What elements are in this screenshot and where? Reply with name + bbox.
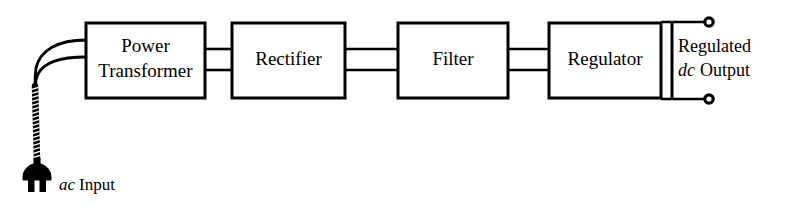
cord-lower-curve — [36, 57, 87, 85]
output-terminal-top-dot[interactable] — [705, 18, 713, 26]
plug-prong-left — [28, 180, 35, 192]
connector-filter-regulator — [508, 49, 549, 70]
block-filter[interactable]: Filter — [398, 23, 508, 98]
dc-output-terminals: Regulated dcOutput — [661, 18, 751, 103]
block-rectifier-label: Rectifier — [255, 48, 322, 69]
connector-rectifier-filter — [345, 49, 398, 70]
plug-prong-right — [40, 180, 47, 192]
dc-output-label-line1: Regulated — [678, 36, 751, 56]
block-regulator-label: Regulator — [568, 48, 644, 69]
ac-input-label: acInput — [59, 175, 115, 194]
ac-plug-icon — [23, 158, 51, 192]
block-power-transformer-label-line1: Power — [121, 35, 170, 56]
dc-output-label-rest: Output — [700, 60, 750, 80]
ac-input-label-italic: ac — [59, 175, 76, 194]
output-terminal-bottom-dot[interactable] — [705, 95, 713, 103]
cord-upper-curve — [35, 40, 86, 85]
block-regulator[interactable]: Regulator — [549, 23, 661, 98]
block-power-transformer[interactable]: Power Transformer — [86, 23, 205, 98]
connector-transformer-rectifier — [205, 49, 232, 70]
ac-input-label-rest: Input — [79, 175, 115, 194]
block-filter-label: Filter — [432, 48, 474, 69]
block-diagram-figure: acInput Power Transformer Rectifier — [0, 0, 788, 209]
plug-body — [23, 164, 51, 181]
dc-output-label-italic: dc — [678, 60, 695, 80]
block-power-transformer-label-line2: Transformer — [98, 60, 193, 81]
block-rectifier[interactable]: Rectifier — [232, 23, 345, 98]
cord-twisted-section — [32, 86, 40, 160]
dc-output-label-line2: dcOutput — [678, 60, 750, 80]
diagram-canvas: acInput Power Transformer Rectifier — [0, 0, 788, 209]
